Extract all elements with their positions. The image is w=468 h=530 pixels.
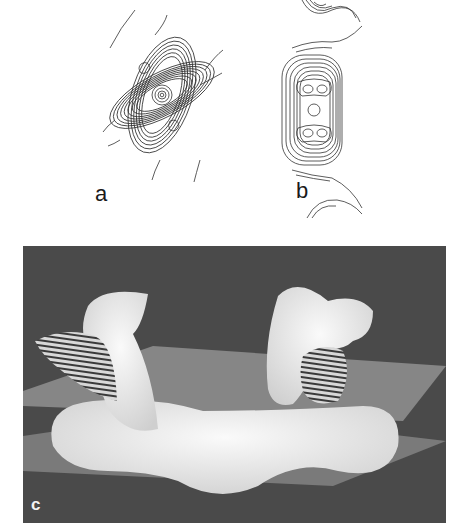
panel-label-b: b [296, 178, 308, 204]
panel-label-c: c [31, 495, 40, 515]
contour-map-b [262, 0, 372, 218]
render-3d-c: c [23, 246, 446, 523]
contour-b-graphic [262, 0, 372, 218]
contour-a-graphic [100, 0, 240, 185]
render-3d-graphic [23, 246, 446, 523]
panel-label-a: a [95, 181, 107, 207]
contour-map-a [100, 0, 240, 185]
